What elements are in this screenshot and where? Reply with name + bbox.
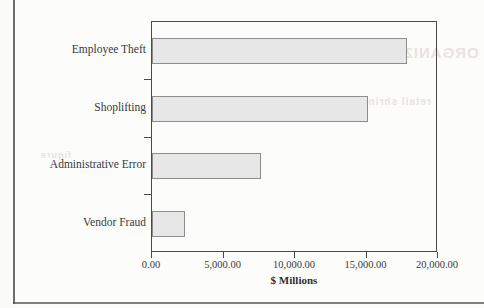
- x-axis-tick-label: 20,000.00: [397, 259, 477, 270]
- bar-vendor-fraud: [152, 211, 185, 237]
- x-axis-tick-label: 5,000.00: [183, 259, 263, 270]
- bar-chart-figure: Employee TheftShopliftingAdministrative …: [0, 0, 484, 308]
- bar-administrative-error: [152, 153, 261, 179]
- x-axis-tick-label: 15,000.00: [326, 259, 406, 270]
- x-axis-tick: [223, 252, 224, 258]
- x-axis-tick: [151, 252, 152, 258]
- bar-employee-theft: [152, 38, 407, 64]
- x-axis-tick-label: 10,000.00: [254, 259, 334, 270]
- y-axis-tick: [144, 194, 151, 195]
- y-axis-label-vendor-fraud: Vendor Fraud: [0, 216, 154, 228]
- x-axis-tick-label: 0.00: [111, 259, 191, 270]
- bar-shoplifting: [152, 96, 368, 122]
- x-axis-tick: [437, 252, 438, 258]
- y-axis-label-employee-theft: Employee Theft: [0, 43, 154, 55]
- x-axis-title: $ Millions: [151, 274, 437, 286]
- plot-area-frame: [151, 21, 437, 252]
- y-axis-label-administrative-error: Administrative Error: [0, 158, 154, 170]
- y-axis-tick: [144, 137, 151, 138]
- x-axis-tick: [366, 252, 367, 258]
- y-axis-label-shoplifting: Shoplifting: [0, 101, 154, 113]
- x-axis-tick: [294, 252, 295, 258]
- y-axis-tick: [144, 79, 151, 80]
